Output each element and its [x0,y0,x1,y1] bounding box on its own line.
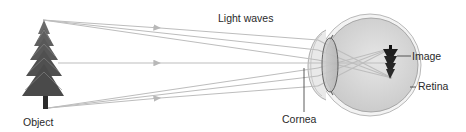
eye-optics-diagram: Light waves Object Cornea Image Retina [0,0,466,132]
lens [322,38,338,92]
object-label: Object [23,117,53,128]
object-tree-icon [22,20,64,109]
light-waves-label: Light waves [218,13,273,24]
retina-label: Retina [418,81,448,92]
image-label: Image [412,51,441,62]
cornea-label: Cornea [282,114,316,125]
